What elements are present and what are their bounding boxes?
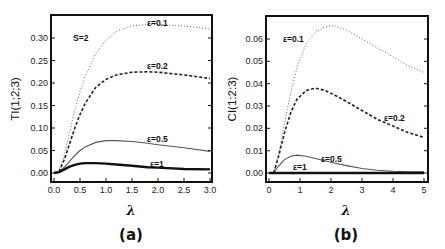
curve-eps-0.2-a [54,72,210,173]
x-tick-label: 3 [359,185,364,195]
curve-eps-1-a [54,163,210,173]
curve-label: ε=0.2 [147,61,168,71]
curve-label: ε=0.5 [321,154,342,164]
y-axis-title-a: TI(1;2;3) [9,77,21,121]
x-axis-title-b: λ [340,203,350,218]
y-tick-label: 0.06 [245,34,263,44]
x-tick-label: 1.5 [126,185,139,195]
y-tick-label: 0.04 [245,79,263,89]
curve-eps-0.1-b [269,26,424,173]
x-tick-label: 5 [421,185,426,195]
curve-eps-0.1-a [54,25,210,174]
y-tick-label: 0.01 [245,146,263,156]
x-tick-label: 0.5 [74,185,87,195]
y-tick-label: 0.10 [30,123,48,133]
x-tick-label: 2 [328,185,333,195]
curve-label: ε=1 [150,159,164,169]
panel-caption-b: (b) [334,226,358,244]
y-tick-label: 0.05 [30,146,48,156]
y-tick-label: 0.15 [30,101,48,111]
x-tick-label: 3.0 [204,185,217,195]
curve-eps-0.2-b [269,88,424,173]
y-tick-label: 0.30 [30,33,48,43]
y-tick-label: 0.00 [30,168,48,178]
panel-b: 0.00 0.01 0.02 0.03 0.04 0.05 0.06 0 1 2… [226,16,428,244]
y-tick-label: 0.20 [30,78,48,88]
curve-label: ε=0.2 [384,113,405,123]
curve-label: ε=0.1 [147,18,168,28]
x-axis-title-a: λ [125,203,135,218]
curve-label: ε=1 [293,162,307,172]
parameter-annotation: S=2 [73,33,89,43]
y-axis-title-b: CI(1:2:3) [226,76,238,121]
x-tick-label: 2.5 [178,185,191,195]
curve-label: ε=0.5 [147,134,168,144]
y-tick-label: 0.05 [245,56,263,66]
figure: 0.00 0.05 0.10 0.15 0.20 0.25 0.30 0.0 0… [0,0,445,249]
curve-label: ε=0.1 [283,34,304,44]
panel-a: 0.00 0.05 0.10 0.15 0.20 0.25 0.30 0.0 0… [9,15,216,244]
x-tick-label: 2.0 [152,185,165,195]
y-axis-a [51,38,212,173]
x-tick-label: 4 [390,185,395,195]
x-tick-label: 1 [297,185,302,195]
y-tick-label: 0.02 [245,123,263,133]
y-tick-label: 0.03 [245,101,263,111]
y-tick-label: 0.00 [245,168,263,178]
y-axis-b [266,39,428,173]
panel-caption-a: (a) [119,226,143,244]
x-tick-label: 0 [266,185,271,195]
y-tick-label: 0.25 [30,56,48,66]
x-tick-label: 0.0 [48,185,61,195]
x-tick-label: 1.0 [100,185,113,195]
